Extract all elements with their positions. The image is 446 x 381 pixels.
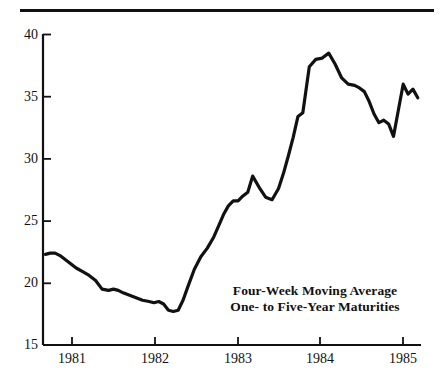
- annotation-line-1: Four-Week Moving Average: [220, 283, 410, 299]
- y-tick-label-20: 20: [8, 276, 38, 290]
- chart-annotation: Four-Week Moving Average One- to Five-Ye…: [220, 283, 410, 315]
- data-series-line: [45, 53, 417, 311]
- x-tick-label-1983: 1983: [208, 352, 268, 366]
- chart-plot-area: [0, 0, 446, 381]
- x-tick-label-1985: 1985: [373, 352, 433, 366]
- x-axis-ticks: [72, 337, 403, 345]
- annotation-line-2: One- to Five-Year Maturities: [220, 299, 410, 315]
- y-tick-label-40: 40: [8, 28, 38, 42]
- x-tick-label-1982: 1982: [125, 352, 185, 366]
- chart-figure: 40 35 30 25 20 15 1981 1982 1983 1984 19…: [0, 0, 446, 381]
- y-tick-label-25: 25: [8, 214, 38, 228]
- y-axis-ticks: [43, 35, 51, 346]
- y-tick-label-30: 30: [8, 152, 38, 166]
- y-tick-label-15: 15: [8, 338, 38, 352]
- y-tick-label-35: 35: [8, 90, 38, 104]
- x-tick-label-1981: 1981: [42, 352, 102, 366]
- x-tick-label-1984: 1984: [290, 352, 350, 366]
